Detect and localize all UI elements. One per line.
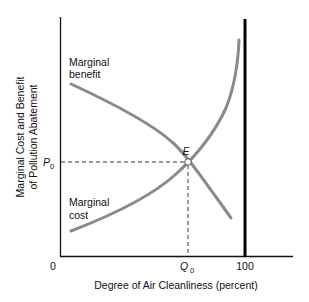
mb-label-line2: benefit	[69, 68, 101, 80]
chart: Marginal Cost and Benefit of Pollution A…	[0, 0, 309, 302]
mb-label-line1: Marginal	[69, 56, 109, 68]
p0-sub: 0	[50, 162, 54, 171]
q0-tick-label: Q 0	[180, 260, 194, 275]
origin-label: 0	[50, 260, 56, 272]
p0-tick-label: P 0	[43, 156, 54, 171]
mc-label-line1: Marginal	[69, 196, 109, 208]
mc-label-line2: cost	[69, 209, 88, 221]
hundred-tick-label: 100	[236, 260, 254, 272]
p0-main: P	[43, 156, 50, 168]
q0-main: Q	[180, 260, 188, 272]
y-axis-label: Marginal Cost and Benefit of Pollution A…	[14, 77, 39, 198]
y-axis-label-line1: Marginal Cost and Benefit	[14, 77, 26, 198]
x-axis-label: Degree of Air Cleanliness (percent)	[94, 279, 257, 291]
e-label: E	[182, 145, 190, 157]
q0-sub: 0	[190, 266, 194, 275]
equilibrium-point-e	[185, 159, 192, 166]
y-axis-label-line2: of Pollution Abatement	[27, 84, 39, 189]
